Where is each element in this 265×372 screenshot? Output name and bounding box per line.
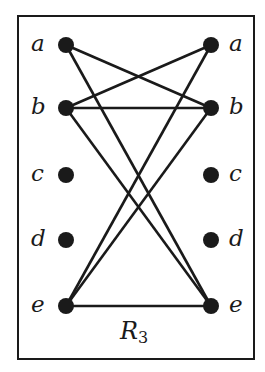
node-left-a <box>58 37 74 53</box>
label-left-c: c <box>31 162 44 185</box>
label-left-d: d <box>31 227 46 250</box>
label-left-e: e <box>31 293 45 316</box>
node-right-b <box>203 100 219 116</box>
label-right-d: d <box>229 227 244 250</box>
label-right-b: b <box>229 95 244 118</box>
label-left-b: b <box>31 95 46 118</box>
label-left-a: a <box>31 32 45 55</box>
relation-subscript: 3 <box>138 328 148 347</box>
node-left-e <box>58 298 74 314</box>
node-right-a <box>203 37 219 53</box>
node-left-d <box>58 232 74 248</box>
node-left-b <box>58 100 74 116</box>
relation-title: R3 <box>120 317 148 347</box>
label-right-e: e <box>229 293 243 316</box>
label-right-a: a <box>229 32 243 55</box>
node-left-c <box>58 167 74 183</box>
node-right-e <box>203 298 219 314</box>
node-right-d <box>203 232 219 248</box>
node-right-c <box>203 167 219 183</box>
label-right-c: c <box>229 162 242 185</box>
relation-name: R <box>120 317 138 345</box>
